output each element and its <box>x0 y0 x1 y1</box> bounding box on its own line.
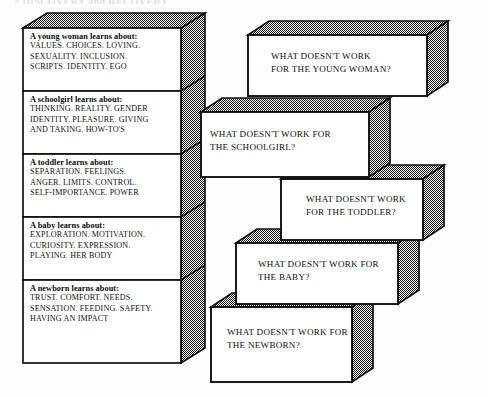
left-line-3-2: ANGER. LIMITS. CONTROL. <box>30 178 139 189</box>
left-line-5-1: TRUST. COMFORT. NEEDS. <box>30 293 152 304</box>
left-lead-1: A young woman learns about: <box>30 32 140 41</box>
left-lead-3: A toddler learns about: <box>30 158 139 167</box>
left-line-4-3: PLAYING. HER BODY <box>30 251 145 262</box>
left-block-text-toddler: A toddler learns about: SEPARATION. FEEL… <box>30 158 139 199</box>
left-lead-5: A newborn learns about: <box>30 284 152 293</box>
right-q3-line1: WHAT DOESN'T WORK <box>306 193 406 206</box>
left-stack-side-face <box>181 13 205 363</box>
scanned-page: 2 DISCOVERY and RECOVERY <box>0 0 488 397</box>
left-line-1-2: SEXUALITY. INCLUSION. <box>30 52 140 63</box>
left-line-4-2: CURIOSITY. EXPRESSION. <box>30 241 145 252</box>
right-block-text-schoolgirl: WHAT DOESN'T WORK FOR THE SCHOOLGIRL? <box>210 128 331 154</box>
left-block-text-young-woman: A young woman learns about: VALUES. CHOI… <box>30 32 140 73</box>
left-line-5-2: SENSATION. FEEDING. SAFETY. <box>30 304 152 315</box>
left-block-text-newborn: A newborn learns about: TRUST. COMFORT. … <box>30 284 152 325</box>
right-block-text-baby: WHAT DOESN'T WORK FOR THE BABY? <box>258 258 379 284</box>
left-line-1-3: SCRIPTS. IDENTITY. EGO <box>30 62 140 73</box>
left-lead-4: A baby learns about: <box>30 221 145 230</box>
right-block-text-toddler: WHAT DOESN'T WORK FOR THE TODDLER? <box>306 193 406 219</box>
right-q2-line2: THE SCHOOLGIRL? <box>210 141 331 154</box>
left-line-3-1: SEPARATION. FEELINGS. <box>30 167 139 178</box>
right-q4-line1: WHAT DOESN'T WORK FOR <box>258 258 379 271</box>
left-block-text-schoolgirl: A schoolgirl learns about: THINKING. REA… <box>30 95 148 136</box>
left-line-3-3: SELF-IMPORTANCE. POWER <box>30 188 139 199</box>
left-line-2-3: AND TAKING. HOW-TO'S <box>30 125 148 136</box>
right-q4-line2: THE BABY? <box>258 271 379 284</box>
right-q2-line1: WHAT DOESN'T WORK FOR <box>210 128 331 141</box>
left-block-text-baby: A baby learns about: EXPLORATION. MOTIVA… <box>30 221 145 262</box>
right-q3-line2: FOR THE TODDLER? <box>306 206 406 219</box>
left-line-2-2: IDENTITY. PLEASURE. GIVING <box>30 115 148 126</box>
right-q1-line1: WHAT DOESN'T WORK <box>271 50 391 63</box>
left-line-5-3: HAVING AN IMPACT <box>30 314 152 325</box>
left-line-2-1: THINKING. REALITY. GENDER <box>30 104 148 115</box>
left-stack-top-face <box>23 13 205 28</box>
right-q5-line1: WHAT DOESN'T WORK FOR <box>227 326 348 339</box>
right-q5-line2: THE NEWBORN? <box>227 339 348 352</box>
right-block-text-young-woman: WHAT DOESN'T WORK FOR THE YOUNG WOMAN? <box>271 50 391 76</box>
left-line-4-1: EXPLORATION. MOTIVATION. <box>30 230 145 241</box>
left-lead-2: A schoolgirl learns about: <box>30 95 148 104</box>
right-block-text-newborn: WHAT DOESN'T WORK FOR THE NEWBORN? <box>227 326 348 352</box>
right-q1-line2: FOR THE YOUNG WOMAN? <box>271 63 391 76</box>
left-line-1-1: VALUES. CHOICES. LOVING. <box>30 41 140 52</box>
